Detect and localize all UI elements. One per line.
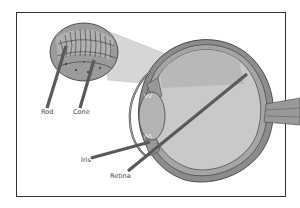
photoreceptor-inset (50, 23, 118, 81)
lens (139, 92, 165, 140)
label-retina: Retina (110, 173, 131, 180)
label-cone: Cone (73, 109, 90, 116)
label-iris: Iris (81, 157, 91, 164)
label-rod: Rod (41, 109, 53, 116)
eye-diagram (0, 0, 300, 208)
